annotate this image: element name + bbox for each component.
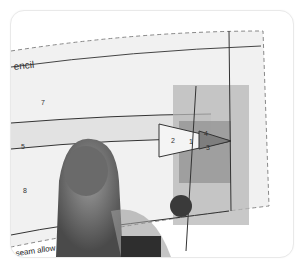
photo-card: encil 7 5 8 2 4 1 3 seam allow [10,10,294,258]
pattern-title-text: encil [13,59,35,72]
region-number: 2 [171,137,175,144]
region-number: 1 [189,138,193,145]
region-number: 5 [21,143,25,150]
region-number: 3 [206,144,210,151]
region-number: 8 [23,187,27,194]
region-number: 7 [41,99,45,106]
region-number: 4 [204,130,208,137]
pattern-photo [11,11,293,257]
